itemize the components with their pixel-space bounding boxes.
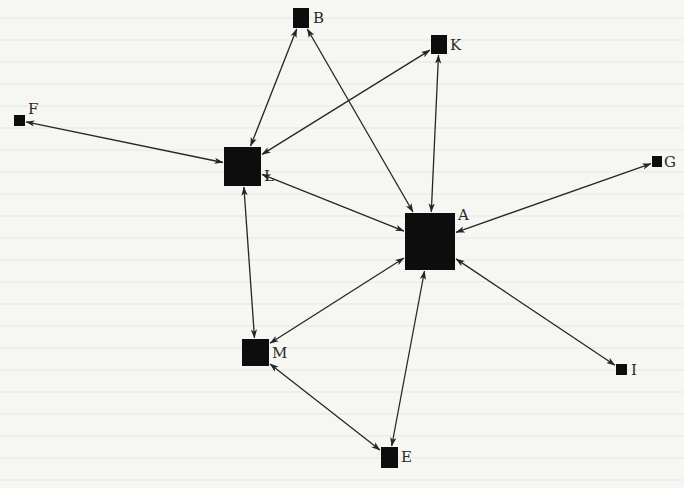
node-square xyxy=(224,147,261,186)
node-square xyxy=(616,364,627,375)
edge-a-k xyxy=(431,55,438,212)
edge-m-e xyxy=(270,364,380,450)
node-square xyxy=(14,115,25,126)
node-i: I xyxy=(616,361,637,379)
edge-l-a xyxy=(262,174,404,231)
node-square xyxy=(405,213,455,270)
node-b: B xyxy=(293,8,324,28)
edge-l-m xyxy=(244,187,255,338)
node-label: M xyxy=(272,344,287,362)
node-m: M xyxy=(242,339,287,366)
edge-a-e xyxy=(392,271,425,446)
node-label: I xyxy=(631,361,637,379)
node-label: G xyxy=(664,153,676,171)
network-diagram: ABEFGIKLM xyxy=(0,0,684,488)
node-label: B xyxy=(313,9,324,27)
node-e: E xyxy=(381,447,412,468)
node-square xyxy=(381,447,398,468)
graph-svg: ABEFGIKLM xyxy=(0,0,684,488)
node-square xyxy=(293,8,309,28)
node-square xyxy=(652,156,662,167)
paper-show-through xyxy=(0,18,684,480)
edge-a-b xyxy=(307,29,413,212)
node-label: F xyxy=(28,100,38,118)
node-k: K xyxy=(431,35,462,54)
edge-a-m xyxy=(270,258,404,343)
edges xyxy=(26,29,651,450)
edge-a-g xyxy=(456,164,651,233)
node-square xyxy=(242,339,269,366)
node-l: L xyxy=(224,147,274,186)
node-label: K xyxy=(450,36,462,54)
node-label: E xyxy=(401,448,412,466)
node-label: L xyxy=(264,167,274,185)
node-square xyxy=(431,35,447,54)
node-g: G xyxy=(652,153,676,171)
edge-l-k xyxy=(262,50,430,154)
node-label: A xyxy=(457,206,469,224)
edge-a-i xyxy=(456,259,615,365)
